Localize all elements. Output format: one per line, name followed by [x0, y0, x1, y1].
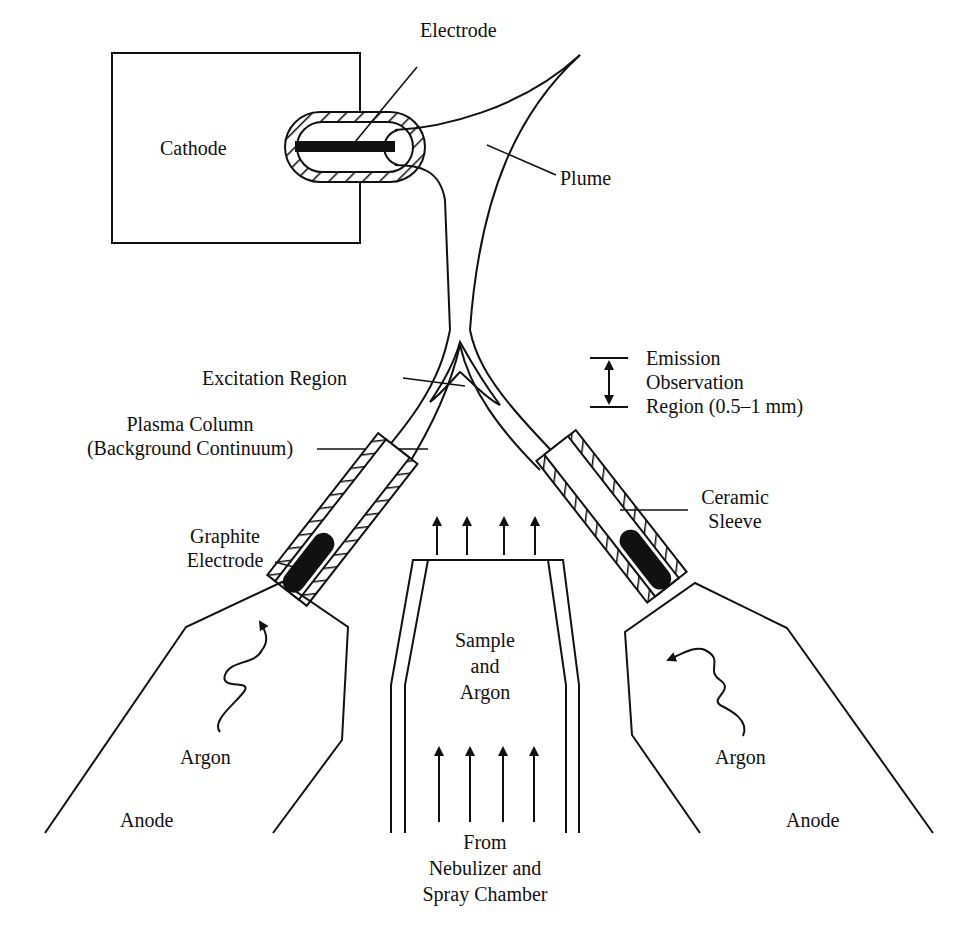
- label-source-line2: Nebulizer and: [390, 856, 580, 880]
- label-sample-line2: and: [430, 654, 540, 678]
- left-anode: [45, 582, 348, 833]
- label-graphite-line2: Electrode: [170, 548, 280, 572]
- label-plasma-column-line1: Plasma Column: [70, 412, 310, 436]
- label-sample-line3: Argon: [430, 680, 540, 704]
- label-cathode: Cathode: [160, 136, 227, 160]
- right-anode: [625, 583, 933, 833]
- label-source-line1: From: [390, 830, 580, 854]
- label-emission-line2: Observation: [646, 370, 744, 394]
- label-anode-right: Anode: [786, 808, 839, 832]
- dcp-diagram: [0, 0, 973, 946]
- label-argon-right: Argon: [715, 745, 766, 769]
- emission-region-marker: [590, 358, 628, 407]
- label-ceramic-line2: Sleeve: [690, 509, 780, 533]
- flow-arrows-top: [437, 518, 535, 555]
- label-excitation-region: Excitation Region: [202, 366, 347, 390]
- label-emission-line3: Region (0.5–1 mm): [646, 394, 803, 418]
- flow-arrows-bottom: [439, 748, 534, 822]
- label-electrode: Electrode: [420, 18, 497, 42]
- right-electrode-assembly: [536, 430, 686, 603]
- label-ceramic-line1: Ceramic: [690, 485, 780, 509]
- label-emission-line1: Emission: [646, 346, 720, 370]
- label-argon-left: Argon: [180, 745, 231, 769]
- label-graphite-line1: Graphite: [170, 524, 280, 548]
- label-anode-left: Anode: [120, 808, 173, 832]
- label-plasma-column-line2: (Background Continuum): [70, 436, 310, 460]
- plume: [384, 55, 580, 330]
- label-plume: Plume: [560, 166, 611, 190]
- label-source-line3: Spray Chamber: [390, 882, 580, 906]
- label-sample-line1: Sample: [430, 628, 540, 652]
